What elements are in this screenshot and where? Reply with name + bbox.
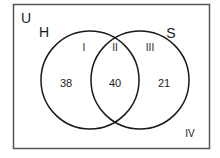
region-i-label: I (83, 42, 86, 53)
region-ii-count: 40 (109, 77, 121, 89)
set-h-label: H (39, 24, 49, 40)
set-s-label: S (166, 25, 175, 41)
region-ii-label: II (112, 42, 118, 53)
region-i-count: 38 (60, 77, 72, 89)
region-iv-label: IV (185, 128, 195, 139)
region-iii-count: 21 (158, 77, 170, 89)
region-iii-label: III (146, 42, 154, 53)
venn-diagram: U H S I II III IV 38 40 21 (0, 0, 220, 158)
universe-label: U (21, 10, 31, 26)
